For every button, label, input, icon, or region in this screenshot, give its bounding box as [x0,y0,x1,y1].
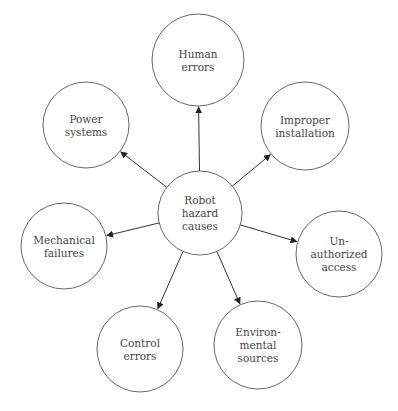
arrow-to-control-errors [158,251,183,308]
node-label: mental [240,339,277,351]
robot-hazard-diagram: RobothazardcausesHumanerrorsImproperinst… [0,0,398,411]
node-environmental-sources: Environ-mentalsources [214,301,302,389]
node-label: errors [182,61,215,73]
node-control-errors: Controlerrors [97,306,183,392]
node-label: installation [275,127,335,139]
arrow-to-improper-installation [232,155,270,187]
arrow-to-mechanical-failures [107,223,159,236]
node-label: causes [182,220,218,232]
node-label: sources [238,352,279,364]
node-label: Human [179,48,218,60]
node-label: hazard [182,207,219,219]
arrow-to-environmental-sources [217,252,240,304]
node-label: Control [120,337,161,349]
node-label: Power [69,113,103,125]
arrow-to-human-errors [199,107,200,171]
nodes-group: RobothazardcausesHumanerrorsImproperinst… [21,14,382,392]
node-label: Improper [280,114,331,126]
node-label: Environ- [235,326,281,338]
node-unauthorized-access: Un-authorizedaccess [296,211,382,297]
node-mechanical-failures: Mechanicalfailures [21,203,107,289]
node-improper-installation: Improperinstallation [261,82,349,170]
node-label: Robot [184,194,216,206]
node-human-errors: Humanerrors [152,14,244,106]
node-robot-hazard-causes: Robothazardcauses [158,171,242,255]
arrow-to-unauthorized-access [240,225,296,242]
node-label: Un- [329,235,349,247]
node-label: failures [44,247,84,259]
arrow-to-power-systems [121,152,167,187]
node-power-systems: Powersystems [43,82,129,168]
node-label: errors [124,350,157,362]
node-label: access [321,261,356,273]
node-label: Mechanical [33,234,95,246]
node-label: authorized [310,248,367,260]
node-label: systems [65,126,108,138]
